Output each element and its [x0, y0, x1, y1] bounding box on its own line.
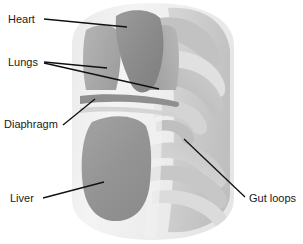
liver-group — [82, 116, 151, 221]
label-gut-loops: Gut loops — [249, 192, 297, 204]
figure-container: Heart Lungs Diaphragm Liver Gut loops — [0, 0, 303, 244]
label-heart: Heart — [8, 13, 35, 25]
label-liver: Liver — [10, 192, 34, 204]
lung-left-shape — [83, 25, 121, 90]
label-diaphragm: Diaphragm — [4, 118, 58, 130]
liver-shape — [82, 116, 151, 221]
label-lungs: Lungs — [8, 56, 38, 68]
anatomy-illustration: Heart Lungs Diaphragm Liver Gut loops — [0, 0, 303, 244]
